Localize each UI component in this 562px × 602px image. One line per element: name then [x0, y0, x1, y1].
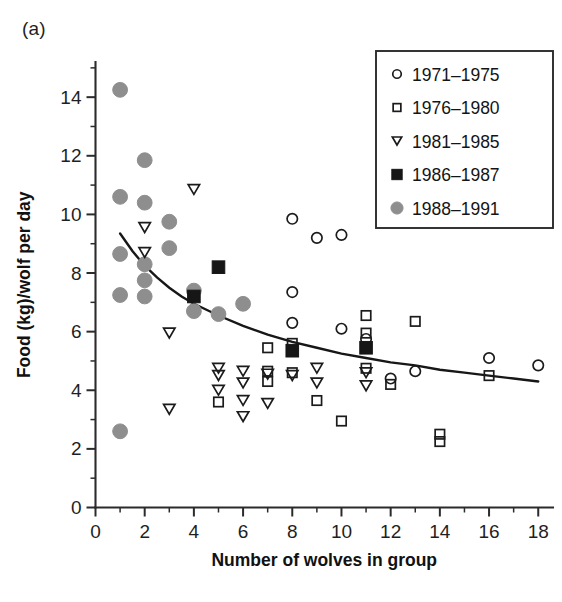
x-axis-title: Number of wolves in group: [211, 550, 437, 570]
data-point: [213, 363, 224, 373]
data-point: [263, 343, 272, 352]
data-point: [237, 412, 248, 422]
data-point: [336, 230, 346, 240]
legend-entry-label: 1988–1991: [412, 199, 500, 219]
data-point: [360, 341, 373, 354]
data-point: [311, 378, 322, 388]
svg-text:Food (kg)/wolf per day: Food (kg)/wolf per day: [14, 191, 34, 378]
svg-text:8: 8: [71, 263, 82, 284]
legend-marker-icon: [391, 202, 403, 214]
data-point: [361, 311, 370, 320]
data-point: [139, 248, 150, 258]
svg-text:10: 10: [60, 204, 81, 225]
data-point: [360, 381, 371, 391]
data-point: [113, 247, 128, 262]
data-point: [237, 396, 248, 406]
data-point: [113, 189, 128, 204]
svg-text:Number of wolves in group: Number of wolves in group: [211, 550, 437, 570]
data-point: [113, 424, 128, 439]
svg-text:14: 14: [60, 87, 82, 108]
data-point: [286, 344, 299, 357]
legend[interactable]: 1971–19751976–19801981–19851986–19871988…: [376, 51, 553, 228]
data-point: [385, 373, 395, 383]
data-point: [188, 290, 201, 303]
svg-text:16: 16: [478, 521, 499, 542]
data-point: [214, 397, 223, 406]
svg-text:6: 6: [238, 521, 249, 542]
legend-entry-label: 1981–1985: [412, 132, 500, 152]
fit-curve: [120, 233, 538, 381]
figure-root: (a) 02468101214 024681012141618 Food (kg…: [0, 0, 562, 602]
data-point: [113, 82, 128, 97]
y-axis: 02468101214: [60, 62, 95, 518]
data-point: [287, 318, 297, 328]
legend-marker-icon: [392, 169, 402, 179]
data-point: [236, 296, 251, 311]
data-point: [164, 328, 175, 338]
svg-text:12: 12: [380, 521, 401, 542]
svg-text:2: 2: [71, 438, 82, 459]
series-1988-1991: [113, 82, 251, 438]
data-point: [162, 241, 177, 256]
data-point: [139, 223, 150, 233]
data-point: [337, 416, 346, 425]
svg-text:12: 12: [60, 145, 81, 166]
data-point: [411, 317, 420, 326]
svg-text:4: 4: [71, 380, 82, 401]
data-point: [312, 396, 321, 405]
data-point: [262, 399, 273, 409]
data-point: [484, 353, 494, 363]
series-1971-1975: [287, 214, 543, 384]
data-point: [410, 366, 420, 376]
svg-text:6: 6: [71, 321, 82, 342]
svg-text:14: 14: [429, 521, 451, 542]
data-point: [212, 261, 225, 274]
scatter-plot: 02468101214 024681012141618 Food (kg)/wo…: [0, 0, 562, 602]
data-point: [137, 289, 152, 304]
data-point: [137, 153, 152, 168]
data-point: [237, 366, 248, 376]
y-axis-title: Food (kg)/wolf per day: [14, 191, 34, 378]
data-point: [137, 273, 152, 288]
legend-entry-label: 1976–1980: [412, 98, 500, 118]
data-point: [311, 363, 322, 373]
svg-text:0: 0: [90, 521, 101, 542]
data-point: [113, 288, 128, 303]
data-point: [188, 185, 199, 195]
legend-entry-label: 1971–1975: [412, 65, 500, 85]
data-point: [533, 360, 543, 370]
data-point: [162, 214, 177, 229]
data-point: [211, 307, 226, 322]
svg-text:4: 4: [189, 521, 200, 542]
data-point: [164, 404, 175, 414]
svg-text:10: 10: [331, 521, 352, 542]
svg-text:18: 18: [528, 521, 549, 542]
data-point: [237, 378, 248, 388]
x-axis: 024681012141618: [90, 508, 553, 542]
data-point: [213, 385, 224, 395]
svg-text:8: 8: [287, 521, 298, 542]
svg-text:0: 0: [71, 497, 82, 518]
data-point: [312, 233, 322, 243]
data-point: [287, 287, 297, 297]
data-point: [336, 324, 346, 334]
legend-entry-label: 1986–1987: [412, 165, 500, 185]
svg-text:2: 2: [139, 521, 150, 542]
data-point: [287, 214, 297, 224]
data-point: [186, 304, 201, 319]
data-point: [137, 195, 152, 210]
